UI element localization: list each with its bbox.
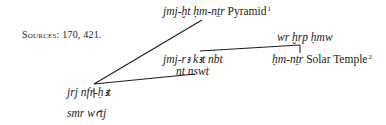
line-mid-to-solar (200, 45, 300, 51)
mid-line1: jmj-rꜣ kꜣt nbt (163, 54, 223, 66)
node-pyramid: jmj-ḫt ḥm-nṯr Pyramid1 (163, 6, 271, 18)
sources-label: Sources: (22, 29, 60, 40)
solar-title-top: wr ḫrp ḥmw (277, 32, 333, 44)
solar-title: ḥm-nṯr (272, 53, 303, 65)
footnote-1: 1 (268, 5, 272, 13)
root-sub: smr wꜥtj (67, 108, 106, 120)
footnote-2: 2 (368, 53, 372, 61)
node-solar: ḥm-nṯr Solar Temple2 (272, 54, 372, 66)
mid-line2: nt nswt (176, 66, 209, 78)
solar-place: Solar Temple (306, 53, 367, 65)
pyramid-title: jmj-ḫt ḥm-nṯr (163, 5, 225, 17)
sources-values: 170, 421. (62, 29, 101, 40)
sources-note: Sources: 170, 421. (22, 30, 102, 40)
root-title: jrj nfr-ḥꜣt (67, 87, 111, 99)
pyramid-place: Pyramid (228, 5, 267, 17)
